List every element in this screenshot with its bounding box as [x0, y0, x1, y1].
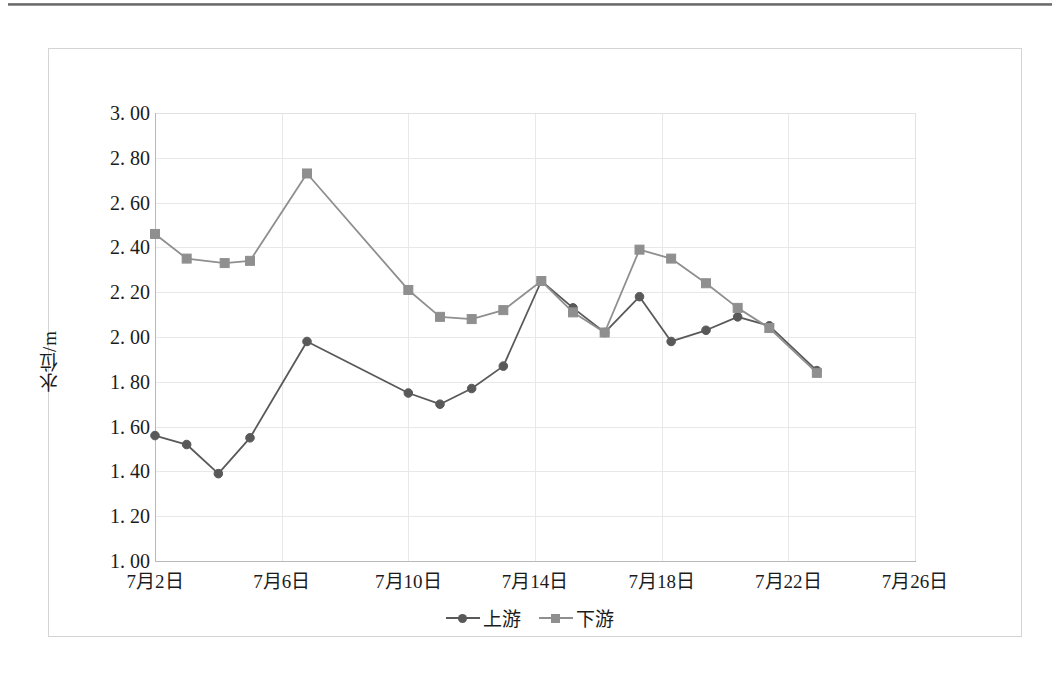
y-axis-title: 水位/m: [36, 330, 63, 392]
gridline-vertical: [282, 113, 283, 561]
y-tick-label: 1. 20: [2, 505, 150, 528]
legend-item-upstream[interactable]: 上游: [446, 604, 521, 631]
y-tick-label: 2. 20: [2, 281, 150, 304]
y-tick-label: 1. 80: [2, 370, 150, 393]
legend-item-downstream[interactable]: 下游: [539, 604, 614, 631]
x-axis-line: [155, 561, 916, 562]
circle-marker-icon: [446, 611, 480, 625]
gridline-vertical: [535, 113, 536, 561]
y-tick-label: 2. 40: [2, 236, 150, 259]
y-tick-label: 1. 60: [2, 415, 150, 438]
gridline-vertical: [408, 113, 409, 561]
x-tick-label: 7月14日: [502, 566, 569, 593]
scan-edge-artifact: [8, 3, 1052, 6]
y-tick-label: 2. 60: [2, 191, 150, 214]
y-tick-label: 3. 00: [2, 102, 150, 125]
x-tick-label: 7月10日: [375, 566, 442, 593]
x-tick-label: 7月2日: [127, 566, 184, 593]
x-tick-label: 7月6日: [253, 566, 310, 593]
plot-border-top: [155, 113, 916, 114]
x-tick-label: 7月18日: [628, 566, 695, 593]
legend-label: 下游: [576, 609, 614, 630]
square-marker-icon: [539, 611, 573, 625]
y-tick-label: 2. 80: [2, 146, 150, 169]
chart-page: 3. 002. 802. 602. 402. 202. 001. 801. 60…: [0, 0, 1060, 679]
y-tick-label: 2. 00: [2, 326, 150, 349]
plot-border-right: [915, 113, 916, 562]
x-tick-label: 7月22日: [755, 566, 822, 593]
y-tick-label: 1. 40: [2, 460, 150, 483]
x-tick-label: 7月26日: [882, 566, 949, 593]
y-axis-line: [155, 113, 156, 562]
gridline-vertical: [662, 113, 663, 561]
gridline-vertical: [788, 113, 789, 561]
chart-legend: 上游下游: [0, 604, 1060, 631]
legend-label: 上游: [483, 609, 521, 630]
